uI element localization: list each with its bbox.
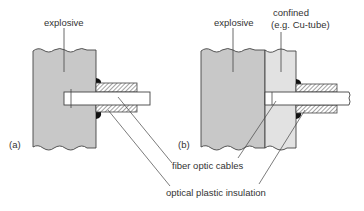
insulation-leader-a: [108, 110, 170, 186]
optical-plastic-insulation-label: optical plastic insulation: [166, 187, 266, 198]
fiber-cable-a: [64, 92, 150, 105]
confined-label-line2: (e.g. Cu-tube): [271, 19, 330, 30]
diagram-canvas: explosive (a) explosive confined (e.g. C…: [0, 0, 364, 211]
panel-b: explosive confined (e.g. Cu-tube) (b): [178, 7, 350, 184]
insulation-top-b: [296, 84, 337, 92]
explosive-label-a: explosive: [44, 17, 84, 28]
seal-bottom-a: [96, 112, 101, 119]
panel-tag-a: (a): [9, 139, 21, 150]
insulation-bottom-b: [296, 105, 337, 113]
panel-a: explosive (a): [9, 17, 172, 186]
fiber-leader-a: [118, 97, 172, 163]
panel-tag-b: (b): [178, 139, 190, 150]
confined-label-line1: confined: [273, 7, 309, 18]
insulation-top-a: [96, 83, 137, 92]
explosive-label-b: explosive: [214, 17, 254, 28]
fiber-cable-b: [265, 92, 350, 105]
fiber-optic-cables-label: fiber optic cables: [172, 160, 244, 171]
